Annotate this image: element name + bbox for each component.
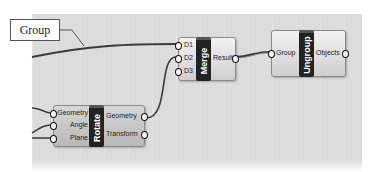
rotate-input-angle[interactable]: Angle [70, 121, 88, 128]
merge-title: Merge [199, 47, 209, 74]
merge-node[interactable]: Merge D1 D2 D3 Result [178, 37, 236, 81]
rotate-output-transform[interactable]: Transform [106, 130, 138, 137]
rotate-grip-geometry-out[interactable] [141, 113, 148, 121]
rotate-node[interactable]: Rotate Geometry Angle Plane Geometry Tra… [53, 105, 145, 147]
rotate-grip-plane[interactable] [50, 135, 57, 143]
merge-grip-d3[interactable] [175, 68, 182, 76]
merge-grip-d2[interactable] [175, 55, 182, 63]
merge-input-d2[interactable]: D2 [184, 54, 193, 61]
rotate-output-geometry[interactable]: Geometry [106, 112, 137, 119]
wire-to-rotate-geometry [32, 108, 51, 113]
merge-output-result[interactable]: Result [213, 54, 233, 61]
merge-grip-d1[interactable] [175, 42, 182, 50]
merge-input-d3[interactable]: D3 [184, 67, 193, 74]
rotate-input-plane[interactable]: Plane [70, 134, 88, 141]
wire-merge-to-ungroup [235, 52, 269, 57]
rotate-core[interactable]: Rotate [89, 105, 104, 147]
ungroup-grip-objects[interactable] [342, 50, 349, 58]
rotate-grip-geometry-in[interactable] [50, 110, 57, 118]
ungroup-node[interactable]: Ungroup Group Objects [271, 30, 346, 77]
ungroup-title: Ungroup [302, 36, 312, 74]
ungroup-grip-group[interactable] [268, 50, 275, 58]
group-callout: Group [10, 19, 60, 41]
rotate-input-geometry[interactable]: Geometry [57, 109, 88, 116]
wire-to-rotate-angle [32, 125, 51, 133]
merge-core[interactable]: Merge [196, 37, 211, 81]
rotate-grip-transform[interactable] [141, 131, 148, 139]
ungroup-output-objects[interactable]: Objects [316, 49, 340, 56]
wire-rotate-to-merge-d2 [146, 57, 176, 118]
ungroup-input-group[interactable]: Group [276, 49, 295, 56]
rotate-title: Rotate [92, 113, 102, 141]
wire-to-merge-d1 [32, 44, 176, 57]
ungroup-core[interactable]: Ungroup [299, 30, 314, 77]
merge-grip-result[interactable] [232, 55, 239, 63]
rotate-grip-angle[interactable] [50, 122, 57, 130]
merge-input-d1[interactable]: D1 [184, 41, 193, 48]
callout-leader [58, 30, 84, 46]
